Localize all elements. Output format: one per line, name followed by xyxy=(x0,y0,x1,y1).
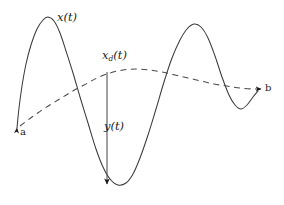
label-xd-subscript: d xyxy=(109,54,114,63)
label-point-a: a xyxy=(20,127,26,137)
signal-tracking-figure: x(t) xd(t) y(t) a b xyxy=(0,0,284,205)
label-y-of-t: y(t) xyxy=(104,121,124,133)
label-x-of-t: x(t) xyxy=(57,12,77,24)
label-xd-tail: (t) xyxy=(113,48,127,62)
label-point-b: b xyxy=(265,83,271,93)
label-xd-base: x xyxy=(102,48,109,62)
dashed-curve-xdt xyxy=(20,69,261,126)
solid-curve-xt xyxy=(17,17,258,185)
figure-canvas xyxy=(0,0,284,205)
label-xd-of-t: xd(t) xyxy=(102,50,127,62)
